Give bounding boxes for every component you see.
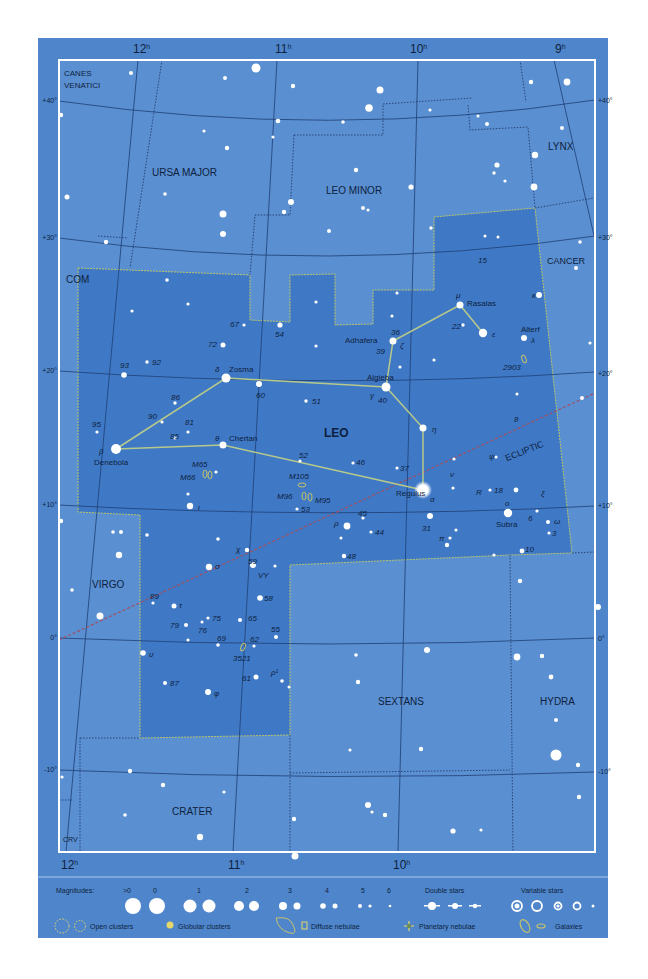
legend-variable-stars: Variable stars	[521, 887, 564, 894]
label-lynx: LYNX	[548, 141, 574, 152]
svg-text:-10°: -10°	[44, 766, 57, 773]
svg-text:θ: θ	[215, 434, 220, 443]
svg-text:3: 3	[288, 887, 292, 894]
svg-text:α: α	[430, 495, 435, 504]
svg-text:χ: χ	[235, 545, 241, 554]
svg-text:μ: μ	[455, 291, 461, 300]
svg-text:40: 40	[378, 396, 387, 405]
svg-text:53: 53	[301, 505, 310, 514]
svg-text:ι: ι	[198, 503, 200, 512]
svg-text:+10°: +10°	[42, 501, 57, 508]
legend-globular-clusters: Globular clusters	[178, 923, 231, 930]
label-canes: CANES	[64, 69, 92, 78]
svg-text:3521: 3521	[233, 654, 251, 663]
legend-diffuse-nebulae: Diffuse nebulae	[311, 923, 360, 930]
svg-text:M65: M65	[192, 460, 208, 469]
svg-text:22: 22	[451, 322, 461, 331]
svg-text:39: 39	[376, 347, 385, 356]
svg-text:36: 36	[391, 328, 400, 337]
svg-text:8: 8	[514, 415, 519, 424]
svg-text:+40°: +40°	[598, 97, 613, 104]
svg-text:5: 5	[361, 887, 365, 894]
svg-text:90: 90	[148, 412, 157, 421]
label-rasalas: Rasalas	[467, 299, 496, 308]
label-virgo: VIRGO	[92, 579, 124, 590]
svg-text:0°: 0°	[598, 635, 605, 642]
svg-text:+20°: +20°	[42, 367, 57, 374]
svg-text:86: 86	[171, 393, 180, 402]
label-adhafera: Adhafera	[345, 336, 378, 345]
svg-text:6: 6	[387, 887, 391, 894]
svg-text:46: 46	[356, 458, 365, 467]
svg-text:62: 62	[250, 635, 259, 644]
svg-text:+20°: +20°	[598, 370, 613, 377]
svg-text:π: π	[439, 534, 445, 543]
svg-text:37: 37	[400, 464, 409, 473]
svg-text:15: 15	[478, 256, 487, 265]
svg-text:ψ: ψ	[489, 452, 495, 461]
label-chertan: Chertan	[229, 434, 257, 443]
svg-text:M66: M66	[180, 473, 196, 482]
svg-text:52: 52	[299, 451, 308, 460]
svg-text:89: 89	[150, 592, 159, 601]
svg-text:λ: λ	[530, 336, 535, 345]
svg-text:+30°: +30°	[598, 234, 613, 241]
svg-text:61: 61	[242, 674, 251, 683]
svg-text:M95: M95	[315, 496, 331, 505]
svg-text:45: 45	[358, 509, 367, 518]
label-denebola: Denebola	[94, 458, 129, 467]
label-cancer: CANCER	[547, 256, 586, 266]
label-zosma: Zosma	[229, 365, 254, 374]
svg-text:ν: ν	[450, 470, 454, 479]
svg-text:-10°: -10°	[598, 768, 611, 775]
svg-text:79: 79	[170, 621, 179, 630]
label-subra: Subra	[496, 520, 518, 529]
svg-text:6: 6	[528, 514, 533, 523]
label-leo-minor: LEO MINOR	[326, 185, 382, 196]
svg-text:3: 3	[552, 529, 557, 538]
svg-text:0°: 0°	[50, 634, 57, 641]
svg-text:ε: ε	[492, 330, 496, 339]
star-chart[interactable]: ECLIPTIC 12h 11h 10h 9h 12h 11h 10h +40°…	[0, 0, 648, 979]
svg-text:ρ: ρ	[333, 519, 339, 528]
svg-text:60: 60	[256, 391, 265, 400]
svg-text:55: 55	[271, 625, 280, 634]
svg-text:69: 69	[217, 634, 226, 643]
svg-text:58: 58	[264, 594, 273, 603]
svg-text:M105: M105	[289, 472, 310, 481]
svg-text:2: 2	[245, 887, 249, 894]
svg-text:10: 10	[525, 545, 534, 554]
svg-text:M96: M96	[277, 492, 293, 501]
label-com: COM	[66, 274, 89, 285]
svg-text:18: 18	[494, 486, 503, 495]
star-chart-frame: ECLIPTIC 12h 11h 10h 9h 12h 11h 10h +40°…	[38, 38, 608, 938]
svg-text:67: 67	[230, 320, 239, 329]
svg-text:81: 81	[185, 418, 194, 427]
svg-text:75: 75	[212, 614, 221, 623]
svg-text:0: 0	[153, 887, 157, 894]
svg-text:65: 65	[248, 614, 257, 623]
svg-text:85: 85	[170, 432, 179, 441]
svg-text:2903: 2903	[502, 363, 521, 372]
svg-text:ω: ω	[554, 517, 560, 526]
svg-text:η: η	[432, 425, 437, 434]
label-algieba: Algieba	[367, 373, 394, 382]
label-sextans: SEXTANS	[378, 696, 424, 707]
svg-text:48: 48	[347, 552, 356, 561]
svg-text:76: 76	[198, 626, 207, 635]
legend-magnitudes-label: Magnitudes:	[56, 887, 94, 895]
svg-text:1: 1	[197, 887, 201, 894]
svg-text:R: R	[476, 488, 482, 497]
svg-text:+30°: +30°	[42, 234, 57, 241]
svg-text:92: 92	[152, 358, 161, 367]
svg-text:+10°: +10°	[598, 502, 613, 509]
svg-text:51: 51	[312, 397, 321, 406]
svg-text:44: 44	[375, 528, 384, 537]
svg-text:59: 59	[248, 557, 257, 566]
svg-text:31: 31	[422, 524, 431, 533]
label-alterf: Alterf	[521, 325, 540, 334]
svg-text:4: 4	[325, 887, 329, 894]
label-regulus: Regulus	[396, 489, 425, 498]
svg-text:+40°: +40°	[42, 97, 57, 104]
label-hydra: HYDRA	[540, 696, 575, 707]
